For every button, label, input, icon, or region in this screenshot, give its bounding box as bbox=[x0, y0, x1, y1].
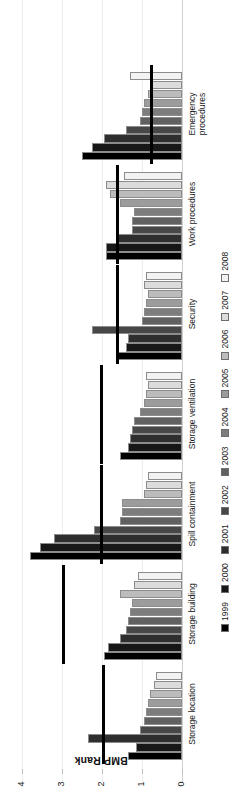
legend-label: 2008 bbox=[220, 252, 230, 271]
bar bbox=[128, 334, 182, 342]
bar bbox=[130, 608, 182, 616]
bar bbox=[146, 299, 182, 307]
reference-line bbox=[62, 566, 65, 665]
category-group bbox=[0, 560, 243, 660]
bar bbox=[136, 743, 182, 751]
bar bbox=[126, 626, 182, 634]
bar bbox=[154, 681, 182, 689]
bar bbox=[146, 481, 182, 489]
bar bbox=[140, 726, 182, 734]
bar bbox=[132, 226, 182, 234]
bar bbox=[148, 472, 182, 480]
bar bbox=[142, 317, 182, 325]
bar bbox=[124, 172, 182, 180]
reference-line bbox=[100, 366, 103, 465]
bar bbox=[120, 590, 182, 598]
legend-label: 1999 bbox=[220, 602, 230, 621]
bar bbox=[132, 599, 182, 607]
bar bbox=[146, 708, 182, 716]
bar bbox=[54, 534, 182, 542]
legend-item: 1999 bbox=[220, 602, 230, 632]
legend-item: 2003 bbox=[220, 446, 230, 476]
reference-line bbox=[100, 466, 103, 565]
bar bbox=[130, 434, 182, 442]
legend-label: 2000 bbox=[220, 563, 230, 582]
legend-label: 2005 bbox=[220, 369, 230, 388]
bar bbox=[110, 190, 182, 198]
bar bbox=[148, 381, 182, 389]
legend-swatch-icon bbox=[221, 585, 229, 593]
bar bbox=[130, 72, 182, 80]
bar bbox=[150, 690, 182, 698]
category-label: Storage location bbox=[188, 664, 198, 764]
bar bbox=[142, 108, 182, 116]
bar bbox=[134, 581, 182, 589]
bar bbox=[132, 217, 182, 225]
bar bbox=[128, 617, 182, 625]
bar bbox=[122, 499, 182, 507]
bar bbox=[140, 408, 182, 416]
legend-label: 2004 bbox=[220, 407, 230, 426]
bar bbox=[146, 372, 182, 380]
bar bbox=[120, 199, 182, 207]
bar bbox=[126, 343, 182, 351]
category-label: Spill containment bbox=[188, 464, 198, 564]
legend-item: 2007 bbox=[220, 291, 230, 321]
bar bbox=[140, 117, 182, 125]
bar bbox=[126, 126, 182, 134]
legend-item: 2002 bbox=[220, 485, 230, 515]
bar bbox=[116, 234, 182, 242]
reference-line bbox=[116, 266, 119, 365]
bar bbox=[92, 143, 182, 151]
reference-line bbox=[102, 666, 105, 765]
bar bbox=[120, 452, 182, 460]
axis-tick-label: 1 bbox=[136, 774, 146, 791]
category-label: Emergency procedures bbox=[188, 64, 207, 164]
bar bbox=[134, 208, 182, 216]
bar bbox=[146, 390, 182, 398]
bar bbox=[122, 508, 182, 516]
bar bbox=[82, 152, 182, 160]
bar bbox=[30, 552, 182, 560]
reference-line bbox=[150, 66, 153, 165]
bar bbox=[148, 699, 182, 707]
bar bbox=[138, 572, 182, 580]
category-label: Storage building bbox=[188, 564, 198, 664]
legend-item: 2000 bbox=[220, 563, 230, 593]
category-label: Security bbox=[188, 264, 198, 364]
reference-line bbox=[116, 166, 119, 265]
bar bbox=[120, 517, 182, 525]
bar bbox=[118, 352, 182, 360]
bar bbox=[128, 752, 182, 760]
bar bbox=[146, 272, 182, 280]
bar bbox=[40, 543, 182, 551]
legend-swatch-icon bbox=[221, 546, 229, 554]
legend-label: 2001 bbox=[220, 524, 230, 543]
bar bbox=[150, 81, 182, 89]
axis-tick-label: 0 bbox=[176, 774, 186, 791]
bar bbox=[92, 326, 182, 334]
legend-label: 2002 bbox=[220, 485, 230, 504]
category-group bbox=[0, 260, 243, 360]
y-axis-title: BMP Rank bbox=[66, 755, 136, 767]
legend-swatch-icon bbox=[221, 313, 229, 321]
axis-tick-label: 4 bbox=[16, 774, 26, 791]
chart-legend: 1999200020012002200320042005200620072008 bbox=[220, 243, 230, 632]
legend-swatch-icon bbox=[221, 624, 229, 632]
legend-label: 2006 bbox=[220, 330, 230, 349]
legend-label: 2007 bbox=[220, 291, 230, 310]
category-label: Storage ventilation bbox=[188, 364, 198, 464]
legend-item: 2006 bbox=[220, 330, 230, 360]
legend-swatch-icon bbox=[221, 507, 229, 515]
bar bbox=[144, 308, 182, 316]
bar bbox=[144, 717, 182, 725]
legend-item: 2005 bbox=[220, 369, 230, 399]
bar bbox=[104, 134, 182, 142]
legend-swatch-icon bbox=[221, 429, 229, 437]
legend-swatch-icon bbox=[221, 468, 229, 476]
axis-tick-label: 2 bbox=[96, 774, 106, 791]
legend-item: 2004 bbox=[220, 407, 230, 437]
category-group bbox=[0, 460, 243, 560]
